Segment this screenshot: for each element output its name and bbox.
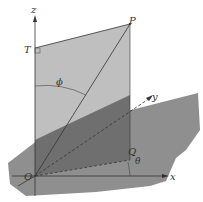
point-P-label: P bbox=[128, 15, 136, 26]
origin-label: O bbox=[24, 171, 32, 182]
z-axis-label: z bbox=[30, 4, 37, 15]
y-axis-label: y bbox=[151, 91, 158, 102]
spherical-coordinates-diagram: z P T ϕ y Q θ O x bbox=[0, 0, 203, 202]
phi-label: ϕ bbox=[56, 76, 63, 87]
z-axis-arrow-icon bbox=[33, 15, 37, 22]
x-axis-label: x bbox=[170, 171, 176, 182]
point-T-label: T bbox=[24, 44, 32, 55]
theta-label: θ bbox=[135, 156, 141, 166]
